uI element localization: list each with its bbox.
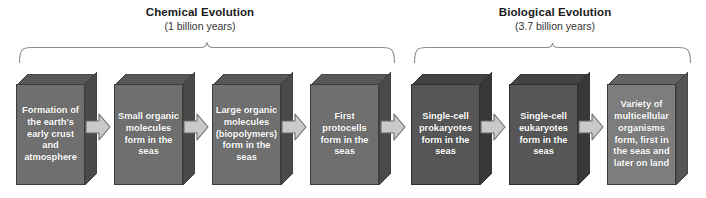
arrow-right-icon: [578, 112, 604, 142]
step-label-1: Formation of the earth's early crust and…: [17, 105, 84, 164]
box-front-face-7: Variety of multicellular organisms form,…: [607, 84, 676, 185]
brace-chemical: [18, 42, 396, 64]
step-box-multicellular-organisms[interactable]: Variety of multicellular organisms form,…: [607, 72, 688, 185]
box-front-face-2: Small organic molecules form in the seas: [114, 84, 183, 185]
step-label-3: Large organic molecules (biopolymers) fo…: [213, 105, 280, 164]
step-label-5: Single-cell prokaryotes form in the seas: [412, 111, 479, 159]
box-front-face-6: Single-cell eukaryotes form in the seas: [509, 84, 578, 185]
phase-title-chemical: Chemical Evolution: [60, 6, 340, 19]
arrow-right-icon: [85, 112, 111, 142]
arrow-right-icon: [480, 112, 506, 142]
box-front-face-5: Single-cell prokaryotes form in the seas: [411, 84, 480, 185]
step-box-first-protocells[interactable]: First protocells form in the seas: [310, 72, 391, 185]
phase-header-chemical: Chemical Evolution (1 billion years): [60, 6, 340, 32]
phase-title-biological: Biological Evolution: [420, 6, 690, 19]
brace-biological: [413, 42, 692, 64]
step-label-7: Variety of multicellular organisms form,…: [608, 99, 675, 170]
box-front-face-4: First protocells form in the seas: [310, 84, 379, 185]
evolution-flow-diagram: Chemical Evolution (1 billion years) Bio…: [0, 0, 706, 198]
box-side-face-7: [676, 72, 688, 185]
step-label-4: First protocells form in the seas: [311, 111, 378, 159]
arrow-right-icon: [183, 112, 209, 142]
step-label-2: Small organic molecules form in the seas: [115, 111, 182, 159]
phase-duration-chemical: (1 billion years): [60, 20, 340, 32]
box-front-face-1: Formation of the earth's early crust and…: [16, 84, 85, 185]
box-front-face-3: Large organic molecules (biopolymers) fo…: [212, 84, 281, 185]
phase-duration-biological: (3.7 billion years): [420, 20, 690, 32]
arrow-right-icon: [281, 112, 307, 142]
arrow-right-icon: [380, 112, 406, 142]
step-label-6: Single-cell eukaryotes form in the seas: [510, 111, 577, 159]
phase-header-biological: Biological Evolution (3.7 billion years): [420, 6, 690, 32]
